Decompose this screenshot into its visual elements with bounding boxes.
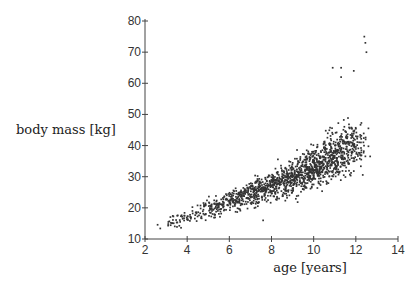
data-point (294, 183, 296, 185)
data-point (183, 217, 185, 219)
data-point (318, 178, 320, 180)
data-point (346, 138, 348, 140)
data-point (215, 211, 217, 213)
data-point (220, 211, 222, 213)
data-point (361, 154, 363, 156)
data-point (205, 214, 207, 216)
data-point (314, 162, 316, 164)
data-point (215, 195, 217, 197)
data-point (360, 152, 362, 154)
data-point (337, 142, 339, 144)
data-point (235, 211, 237, 213)
data-point (261, 187, 263, 189)
data-point (236, 198, 238, 200)
data-point (317, 146, 319, 148)
data-point (208, 215, 210, 217)
data-point (303, 153, 305, 155)
data-point (169, 220, 171, 222)
data-point (327, 137, 329, 139)
data-point (197, 205, 199, 207)
data-point (305, 156, 307, 158)
data-point (241, 191, 243, 193)
data-point (304, 186, 306, 188)
data-point (209, 209, 211, 211)
data-point (307, 151, 309, 153)
data-point (303, 166, 305, 168)
data-point (334, 148, 336, 150)
data-point (203, 204, 205, 206)
data-point (348, 163, 350, 165)
data-point (291, 169, 293, 171)
data-point (291, 192, 293, 194)
data-point (203, 213, 205, 215)
data-point (226, 194, 228, 196)
data-point (271, 176, 273, 178)
data-point (265, 192, 267, 194)
data-point (264, 199, 266, 201)
data-point (222, 197, 224, 199)
data-point (196, 220, 198, 222)
data-point (275, 193, 277, 195)
data-point (313, 153, 315, 155)
data-point (340, 154, 342, 156)
data-point (344, 158, 346, 160)
data-point (291, 182, 293, 184)
data-point (341, 157, 343, 159)
data-point (236, 193, 238, 195)
x-tick-label: 6 (226, 243, 233, 257)
data-point (322, 181, 324, 183)
data-point (187, 219, 189, 221)
data-point (278, 198, 280, 200)
data-point (333, 141, 335, 143)
data-point (297, 161, 299, 163)
data-point (274, 192, 276, 194)
data-point (256, 182, 258, 184)
data-point (257, 205, 259, 207)
data-point (267, 199, 269, 201)
data-point (267, 195, 269, 197)
scatter-chart: 1020304050607080 2468101214 body mass [k… (0, 0, 418, 288)
data-point (349, 159, 351, 161)
data-point (180, 227, 182, 229)
data-point (342, 143, 344, 145)
data-point (199, 212, 201, 214)
data-point (232, 192, 234, 194)
data-point (246, 184, 248, 186)
data-point (312, 151, 314, 153)
data-point (275, 186, 277, 188)
data-point (344, 165, 346, 167)
data-point (285, 179, 287, 181)
data-point (283, 170, 285, 172)
data-point (273, 195, 275, 197)
data-point (330, 144, 332, 146)
data-point (289, 165, 291, 167)
data-point (211, 210, 213, 212)
data-point (227, 205, 229, 207)
data-point (366, 51, 368, 53)
data-point (340, 149, 342, 151)
data-point (310, 144, 312, 146)
data-point (216, 200, 218, 202)
data-point (363, 137, 365, 139)
data-point (261, 199, 263, 201)
data-point (252, 188, 254, 190)
data-point (268, 188, 270, 190)
data-point (340, 136, 342, 138)
data-point (326, 172, 328, 174)
data-point (334, 144, 336, 146)
data-point (345, 176, 347, 178)
data-point (297, 175, 299, 177)
data-point (338, 174, 340, 176)
data-point (338, 156, 340, 158)
data-point (345, 131, 347, 133)
data-point (325, 157, 327, 159)
data-point (339, 146, 341, 148)
data-point (355, 148, 357, 150)
data-point (237, 207, 239, 209)
data-point (299, 169, 301, 171)
data-point (310, 153, 312, 155)
data-point (229, 203, 231, 205)
data-point (252, 185, 254, 187)
data-point (218, 206, 220, 208)
data-point (279, 184, 281, 186)
